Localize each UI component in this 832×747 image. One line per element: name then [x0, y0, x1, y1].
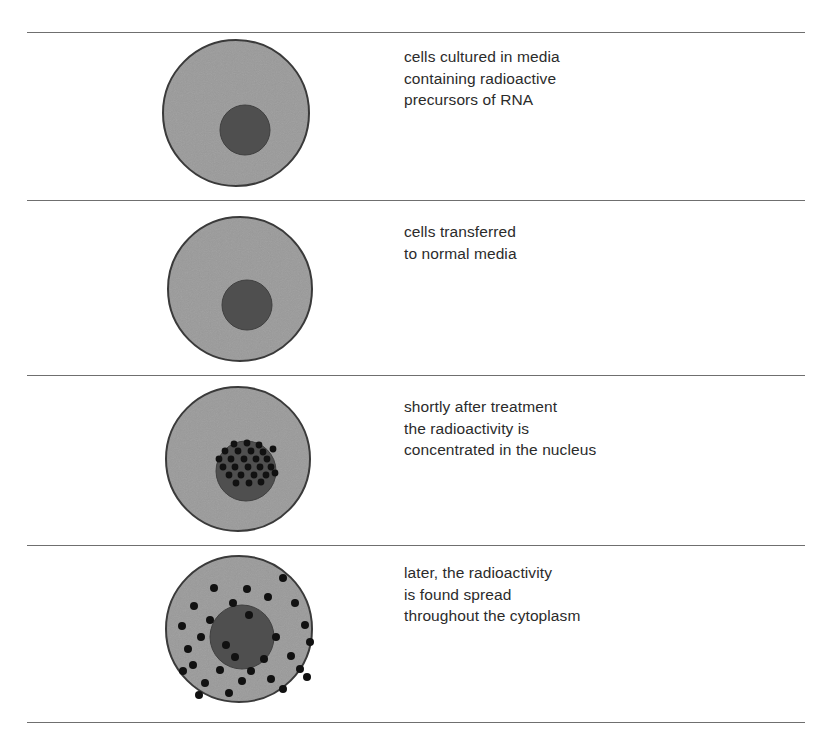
radioactive-grain	[220, 464, 227, 471]
cell-diagram-3	[163, 385, 313, 533]
radioactive-grain	[216, 666, 224, 674]
radioactive-grain	[291, 599, 299, 607]
panel-caption-3: shortly after treatment the radioactivit…	[404, 396, 596, 461]
radioactive-grain	[225, 689, 233, 697]
radioactive-grain	[189, 661, 197, 669]
divider-1	[27, 200, 805, 201]
radioactive-grain	[238, 677, 246, 685]
radioactive-grain	[301, 621, 309, 629]
radioactive-grain	[231, 653, 239, 661]
radioactive-grain	[235, 448, 242, 455]
radioactive-grain	[233, 480, 240, 487]
panel-caption-1: cells cultured in media containing radio…	[404, 46, 560, 111]
radioactive-grain	[306, 638, 314, 646]
radioactive-grain	[256, 442, 263, 449]
radioactive-grain	[241, 456, 248, 463]
cell-diagram-2	[165, 215, 315, 363]
radioactive-grain	[245, 611, 253, 619]
radioactive-grain	[279, 685, 287, 693]
rna-pulse-chase-figure: cells cultured in media containing radio…	[0, 0, 832, 747]
radioactive-grain	[179, 667, 187, 675]
radioactive-grain	[222, 448, 229, 455]
radioactive-grain	[264, 593, 272, 601]
cell-diagram-4	[163, 553, 315, 703]
radioactive-grain	[247, 667, 255, 675]
radioactive-grain	[264, 456, 271, 463]
radioactive-grain	[245, 464, 252, 471]
radioactive-grain	[251, 472, 258, 479]
radioactive-grain	[272, 633, 280, 641]
radioactive-grain	[260, 449, 267, 456]
radioactive-grain	[197, 633, 205, 641]
radioactive-grain	[229, 599, 237, 607]
radioactive-grain	[287, 652, 295, 660]
radioactive-grain	[190, 602, 198, 610]
radioactive-grain	[248, 448, 255, 455]
radioactive-grain	[263, 472, 270, 479]
radioactive-grain	[244, 440, 251, 447]
nucleus	[220, 105, 270, 155]
radioactive-grain	[257, 464, 264, 471]
radioactive-grain	[268, 464, 275, 471]
divider-top	[27, 32, 805, 33]
panel-caption-4: later, the radioactivity is found spread…	[404, 562, 580, 627]
radioactive-grain	[178, 622, 186, 630]
divider-2	[27, 375, 805, 376]
radioactive-grain	[231, 441, 238, 448]
radioactive-grain	[260, 655, 268, 663]
nucleus	[222, 280, 272, 330]
radioactive-grain	[210, 584, 218, 592]
radioactive-grain	[184, 645, 192, 653]
radioactive-grain	[270, 446, 277, 453]
radioactive-grain	[216, 456, 223, 463]
radioactive-grain	[232, 464, 239, 471]
radioactive-grain	[296, 665, 304, 673]
divider-bottom	[27, 722, 805, 723]
radioactive-grain	[226, 472, 233, 479]
radioactive-grain	[228, 456, 235, 463]
radioactive-grain	[238, 472, 245, 479]
panel-caption-2: cells transferred to normal media	[404, 221, 517, 264]
radioactive-grain	[222, 641, 230, 649]
radioactive-grain	[303, 673, 311, 681]
radioactive-grain	[243, 585, 251, 593]
radioactive-grain	[206, 616, 214, 624]
radioactive-grain	[201, 679, 209, 687]
radioactive-grain	[246, 480, 253, 487]
divider-3	[27, 545, 805, 546]
radioactive-grain	[267, 675, 275, 683]
radioactive-grain	[272, 470, 279, 477]
radioactive-grain	[195, 691, 203, 699]
radioactive-grain	[258, 479, 265, 486]
radioactive-grain	[253, 456, 260, 463]
cell-diagram-1	[160, 38, 312, 188]
radioactive-grain	[279, 574, 287, 582]
